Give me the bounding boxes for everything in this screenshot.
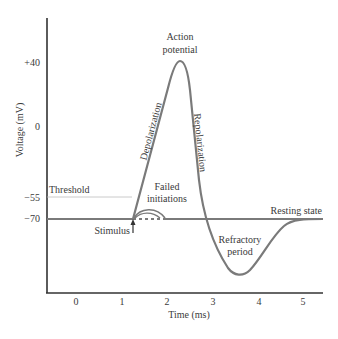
refractory-line1: Refractory bbox=[219, 234, 262, 245]
action-potential-diagram: +40 0 −55 −70 Voltage (mV) 0 1 2 3 4 5 T… bbox=[0, 0, 338, 339]
y-tick-40: +40 bbox=[24, 57, 40, 68]
resting-state-label: Resting state bbox=[271, 205, 323, 216]
threshold-label: Threshold bbox=[49, 184, 90, 195]
depolarization-label: Depolarization bbox=[138, 101, 164, 161]
y-tick-m70: −70 bbox=[24, 213, 40, 224]
failed-line1: Failed bbox=[155, 181, 180, 192]
title-line2: potential bbox=[163, 44, 198, 55]
x-tick-0: 0 bbox=[74, 296, 79, 307]
x-tick-3: 3 bbox=[211, 296, 216, 307]
failed-line2: initiations bbox=[147, 193, 187, 204]
x-tick-5: 5 bbox=[301, 296, 306, 307]
x-axis-label: Time (ms) bbox=[168, 309, 210, 321]
x-tick-4: 4 bbox=[257, 296, 262, 307]
x-tick-1: 1 bbox=[120, 296, 125, 307]
failed-initiation-2 bbox=[135, 213, 160, 218]
y-tick-0: 0 bbox=[35, 121, 40, 132]
stimulus-label: Stimulus bbox=[94, 225, 130, 236]
y-tick-m55: −55 bbox=[24, 192, 40, 203]
title-line1: Action bbox=[166, 31, 193, 42]
refractory-line2: period bbox=[227, 246, 253, 257]
y-axis-label: Voltage (mV) bbox=[14, 103, 26, 158]
x-tick-2: 2 bbox=[165, 296, 170, 307]
